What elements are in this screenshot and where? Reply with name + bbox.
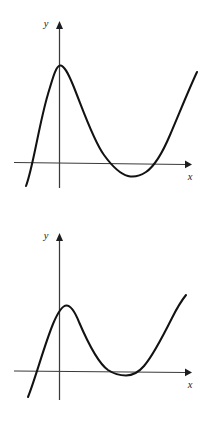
y-axis-arrowhead-bottom: [56, 233, 63, 241]
graph-panel-bottom: x y: [0, 212, 208, 423]
x-axis-arrowhead-bottom: [185, 369, 192, 377]
y-axis-label-top: y: [43, 18, 49, 29]
y-axis-arrowhead-top: [56, 21, 63, 29]
x-axis-arrowhead-top: [185, 161, 192, 169]
x-axis-line-bottom: [14, 371, 186, 373]
curve-path-top: [26, 65, 197, 186]
cubic-graph-top: x y: [0, 0, 208, 212]
x-axis-label-bottom: x: [187, 379, 193, 390]
y-axis-label-bottom: y: [43, 230, 49, 241]
curve-path-bottom: [28, 295, 186, 397]
figure-stack: x y x y: [0, 0, 208, 423]
x-axis-line-top: [14, 163, 186, 165]
cubic-graph-bottom: x y: [0, 212, 208, 423]
graph-panel-top: x y: [0, 0, 208, 212]
x-axis-label-top: x: [187, 171, 193, 182]
